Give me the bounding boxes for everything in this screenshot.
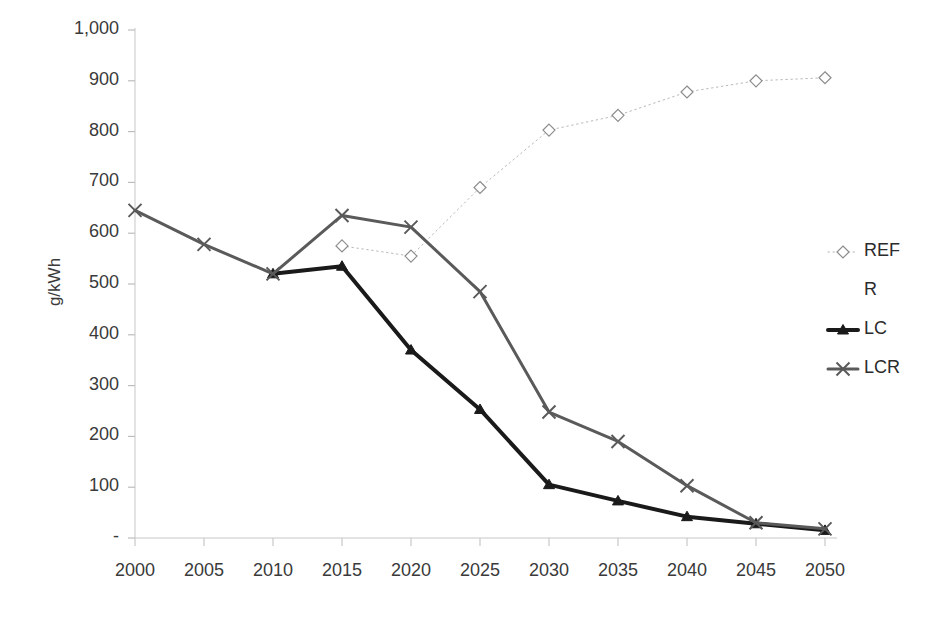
series-lcr-marker-x — [198, 238, 211, 251]
series-ref-marker-diamond — [612, 109, 624, 121]
series-lcr-marker-x — [474, 285, 487, 298]
series-ref — [336, 72, 831, 262]
y-axis-tick-label: 400 — [89, 323, 119, 344]
y-axis-tick-label: 200 — [89, 424, 119, 445]
legend-item-lc[interactable]: LC — [864, 318, 887, 339]
series-line-lc — [273, 266, 825, 530]
y-axis-tick-label: 700 — [89, 170, 119, 191]
y-axis-tick-label: 100 — [89, 475, 119, 496]
line-chart: 1,000900800700600500400300200100-2000200… — [0, 0, 946, 619]
y-axis-tick-label: 1,000 — [74, 18, 119, 39]
y-axis-tick-label: 300 — [89, 374, 119, 395]
y-axis-tick-label: 500 — [89, 272, 119, 293]
series-lcr-marker-x — [543, 406, 556, 419]
series-lcr-marker-x — [612, 435, 625, 448]
series-ref-marker-diamond — [750, 75, 762, 87]
series-lcr-marker-x — [681, 479, 694, 492]
legend-group — [828, 246, 858, 376]
y-axis-tick-label: - — [113, 526, 119, 547]
legend-ref-marker-diamond — [837, 246, 849, 258]
series-ref-marker-diamond — [681, 86, 693, 98]
series-ref-marker-diamond — [336, 240, 348, 252]
series-ref-marker-diamond — [819, 72, 831, 84]
legend-item-lcr[interactable]: LCR — [864, 357, 900, 378]
axis-group — [128, 28, 837, 546]
y-axis-tick-label: 600 — [89, 221, 119, 242]
series-line-lcr — [135, 210, 825, 529]
y-axis-tick-label: 800 — [89, 120, 119, 141]
series-lc — [268, 261, 831, 535]
chart-canvas — [0, 0, 946, 619]
legend-item-ref[interactable]: REF — [864, 240, 900, 261]
x-axis-tick-label: 2050 — [780, 560, 870, 581]
y-axis-tick-label: 900 — [89, 69, 119, 90]
series-ref-marker-diamond — [543, 124, 555, 136]
series-lcr — [129, 204, 832, 536]
legend-item-r[interactable]: R — [864, 279, 877, 300]
y-axis-title: g/kWh — [45, 247, 65, 317]
